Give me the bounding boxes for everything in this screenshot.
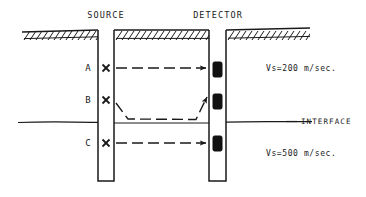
ground-hatch-left bbox=[22, 30, 102, 40]
ground-surface bbox=[22, 28, 312, 40]
detector-element-b bbox=[213, 94, 222, 109]
station-label-c: C bbox=[85, 138, 90, 148]
interface-label: INTERFACE bbox=[301, 117, 352, 126]
ray-path-b bbox=[116, 97, 207, 120]
source-title: SOURCE bbox=[87, 10, 124, 20]
detector-element-c bbox=[213, 136, 222, 151]
detector-element-a bbox=[213, 62, 222, 77]
ray-paths bbox=[116, 68, 207, 143]
upper-velocity-label: Vs=200 m/sec. bbox=[266, 64, 336, 73]
ground-hatch-right bbox=[226, 28, 312, 40]
station-label-a: A bbox=[85, 63, 91, 73]
ground-hatch-middle bbox=[114, 30, 212, 40]
crosshole-seismic-diagram: SOURCE DETECTOR A B C Vs=200 m/sec. Vs=5… bbox=[0, 0, 366, 197]
source-borehole bbox=[98, 30, 114, 181]
detector-title: DETECTOR bbox=[193, 10, 243, 20]
interface-line bbox=[18, 122, 312, 123]
station-label-b: B bbox=[85, 95, 90, 105]
lower-velocity-label: Vs=500 m/sec. bbox=[266, 149, 336, 158]
detector-elements bbox=[213, 62, 222, 151]
